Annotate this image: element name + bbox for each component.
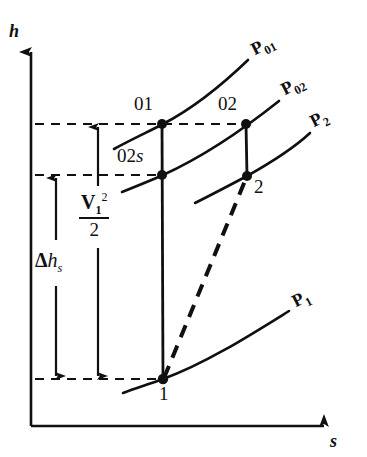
enthalpy-symbol: h (48, 249, 58, 271)
curve-p1 (123, 311, 289, 393)
delta-symbol: Δ (35, 249, 48, 271)
measurement-label-v1-squared-over-2: V12 2 (79, 191, 109, 240)
point-label-02s: 02s (117, 146, 143, 165)
fraction-v1-over-2: V12 2 (79, 191, 109, 240)
point-marker-02s (157, 170, 167, 180)
point-marker-02 (241, 119, 251, 129)
hs-diagram: h s 01 02 02s 2 1 P01 P02 P2 P1 V12 2 Δh… (0, 0, 367, 457)
enthalpy-subscript: s (58, 261, 63, 275)
diagram-canvas (0, 0, 367, 457)
isentropic-vertical-line (162, 124, 163, 379)
stagnation-tie-02-line (246, 124, 247, 176)
point-label-01: 01 (134, 94, 153, 113)
point-label-2: 2 (254, 177, 264, 196)
fraction-numerator: V12 (79, 191, 109, 219)
point-label-02s-suffix: s (136, 145, 143, 166)
point-label-1: 1 (159, 384, 169, 403)
x-axis-label: s (330, 432, 337, 450)
measurement-label-delta-h-s: Δhs (35, 250, 62, 274)
process-lines (162, 124, 247, 379)
point-marker-01 (157, 119, 167, 129)
axis-group (31, 52, 324, 426)
velocity-symbol-sub: 1 (95, 203, 101, 217)
fraction-denominator: 2 (79, 219, 109, 240)
velocity-symbol-sup: 2 (101, 190, 107, 204)
curve-p2 (195, 133, 310, 203)
velocity-symbol: V12 (81, 191, 107, 213)
y-axis-label: h (9, 22, 19, 40)
point-label-02: 02 (218, 94, 237, 113)
point-marker-2 (242, 171, 252, 181)
velocity-symbol-main: V (81, 191, 95, 213)
actual-process-line (164, 176, 247, 378)
state-point-markers (157, 119, 252, 384)
point-label-02s-digits: 02 (117, 145, 136, 166)
